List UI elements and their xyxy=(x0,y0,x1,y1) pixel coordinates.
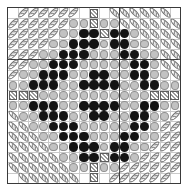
crosshatched-square xyxy=(90,9,99,18)
filled-black-circle xyxy=(39,70,48,79)
filled-black-circle xyxy=(89,29,98,38)
filled-black-circle xyxy=(49,70,58,79)
filled-black-circle xyxy=(39,101,48,110)
diagonal-hatched-ellipse xyxy=(158,171,171,184)
filled-black-circle xyxy=(140,111,149,120)
diagonal-hatched-ellipse xyxy=(148,141,161,154)
light-gray-circle xyxy=(120,81,129,90)
light-gray-circle xyxy=(130,143,139,152)
light-gray-circle xyxy=(140,50,149,59)
diagonal-hatched-ellipse xyxy=(108,171,121,184)
diagonal-hatched-ellipse xyxy=(67,171,80,184)
light-gray-circle xyxy=(39,60,48,69)
light-gray-circle xyxy=(9,101,18,110)
filled-black-circle xyxy=(59,111,68,120)
filled-black-circle xyxy=(110,153,119,162)
diagonal-hatched-ellipse xyxy=(148,171,161,184)
light-gray-circle xyxy=(69,29,78,38)
filled-black-circle xyxy=(150,101,159,110)
light-gray-circle xyxy=(59,81,68,90)
filled-black-circle xyxy=(130,50,139,59)
light-gray-circle xyxy=(171,101,180,110)
light-gray-circle xyxy=(80,122,89,131)
light-gray-circle xyxy=(110,122,119,131)
filled-black-circle xyxy=(140,122,149,131)
light-gray-circle xyxy=(150,122,159,131)
filled-black-circle xyxy=(110,101,119,110)
light-gray-circle xyxy=(150,132,159,141)
filled-black-circle xyxy=(110,80,119,89)
plot-frame xyxy=(7,7,181,184)
crosshatched-square xyxy=(19,91,28,100)
light-gray-circle xyxy=(150,60,159,69)
light-gray-circle xyxy=(80,163,89,172)
filled-black-circle xyxy=(59,132,68,141)
light-gray-circle xyxy=(110,50,119,59)
filled-black-circle xyxy=(39,80,48,89)
diagonal-hatched-ellipse xyxy=(169,110,181,123)
crosshatched-square xyxy=(90,19,99,28)
light-gray-circle xyxy=(39,91,48,100)
light-gray-circle xyxy=(100,122,109,131)
filled-black-circle xyxy=(69,50,78,59)
filled-black-circle xyxy=(120,132,129,141)
residual-matrix-figure xyxy=(0,0,188,191)
light-gray-circle xyxy=(100,50,109,59)
light-gray-circle xyxy=(90,50,99,59)
light-gray-circle xyxy=(90,60,99,69)
light-gray-circle xyxy=(69,81,78,90)
light-gray-circle xyxy=(100,19,109,28)
light-gray-circle xyxy=(69,101,78,110)
light-gray-circle xyxy=(9,81,18,90)
light-gray-circle xyxy=(110,60,119,69)
light-gray-circle xyxy=(100,40,109,49)
light-gray-circle xyxy=(100,163,109,172)
light-gray-circle xyxy=(130,101,139,110)
filled-black-circle xyxy=(79,132,88,141)
light-gray-circle xyxy=(39,132,48,141)
diagonal-hatched-ellipse xyxy=(47,27,60,40)
filled-black-circle xyxy=(69,132,78,141)
filled-black-circle xyxy=(140,101,149,110)
diagonal-hatched-ellipse xyxy=(27,48,40,61)
light-gray-circle xyxy=(69,112,78,121)
light-gray-circle xyxy=(120,70,129,79)
light-gray-circle xyxy=(100,60,109,69)
filled-black-circle xyxy=(79,80,88,89)
light-gray-circle xyxy=(59,91,68,100)
filled-black-circle xyxy=(49,111,58,120)
diagonal-hatched-ellipse xyxy=(118,171,131,184)
diagonal-hatched-ellipse xyxy=(37,38,50,51)
diagonal-hatched-ellipse xyxy=(128,161,141,174)
light-gray-circle xyxy=(150,50,159,59)
light-gray-circle xyxy=(80,112,89,121)
diagonal-hatched-ellipse xyxy=(169,38,181,51)
filled-black-circle xyxy=(99,111,108,120)
light-gray-circle xyxy=(59,29,68,38)
light-gray-circle xyxy=(120,91,129,100)
light-gray-circle xyxy=(130,40,139,49)
light-gray-circle xyxy=(49,143,58,152)
light-gray-circle xyxy=(69,70,78,79)
light-gray-circle xyxy=(110,19,119,28)
filled-black-circle xyxy=(49,80,58,89)
filled-black-circle xyxy=(140,70,149,79)
filled-black-circle xyxy=(130,111,139,120)
light-gray-circle xyxy=(19,81,28,90)
filled-black-circle xyxy=(89,142,98,151)
filled-black-circle xyxy=(130,122,139,131)
light-gray-circle xyxy=(130,153,139,162)
filled-black-circle xyxy=(79,39,88,48)
light-gray-circle xyxy=(110,112,119,121)
light-gray-circle xyxy=(80,60,89,69)
filled-black-circle xyxy=(79,50,88,59)
light-gray-circle xyxy=(69,91,78,100)
light-gray-circle xyxy=(69,153,78,162)
filled-black-circle xyxy=(79,29,88,38)
diagonal-hatched-ellipse xyxy=(148,151,161,164)
light-gray-circle xyxy=(150,112,159,121)
light-gray-circle xyxy=(140,132,149,141)
filled-black-circle xyxy=(150,80,159,89)
light-gray-circle xyxy=(150,70,159,79)
filled-black-circle xyxy=(89,101,98,110)
